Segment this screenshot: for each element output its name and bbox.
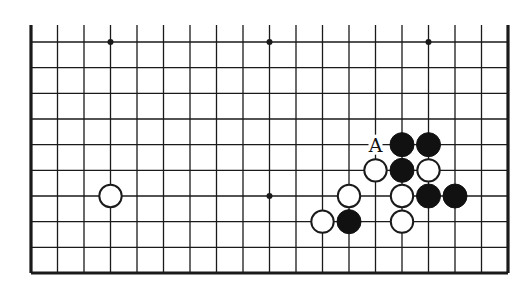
black-stone	[417, 133, 441, 157]
white-stone	[391, 210, 413, 232]
point-label: A	[368, 134, 383, 156]
white-stone	[417, 159, 439, 181]
labels-layer: A	[368, 134, 383, 156]
black-stone	[337, 210, 361, 234]
star-point	[426, 39, 432, 45]
black-stone	[443, 184, 467, 208]
black-stone	[390, 133, 414, 157]
white-stone	[311, 210, 333, 232]
black-stone	[390, 158, 414, 182]
white-stone	[99, 185, 121, 207]
go-board: A	[0, 0, 529, 303]
star-point	[267, 39, 273, 45]
stones-layer	[99, 133, 467, 234]
star-point	[267, 193, 273, 199]
black-stone	[417, 184, 441, 208]
white-stone	[364, 159, 386, 181]
star-point	[108, 39, 114, 45]
white-stone	[391, 185, 413, 207]
white-stone	[338, 185, 360, 207]
